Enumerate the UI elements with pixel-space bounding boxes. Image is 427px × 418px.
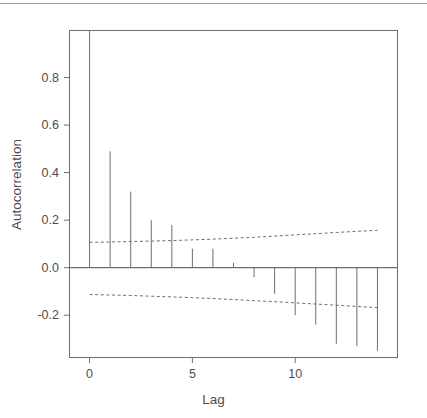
- y-axis-tick-label: -0.2: [0, 309, 59, 322]
- x-axis-title: Lag: [0, 392, 427, 407]
- y-axis-tick-label: 0.8: [0, 72, 59, 85]
- y-axis-title: Autocorrelation: [9, 85, 24, 285]
- acf-plot-figure: 0.80.60.40.20.0-0.2 0510 Lag Autocorrela…: [0, 0, 427, 418]
- x-axis-tick-label: 10: [270, 368, 320, 381]
- x-axis-tick-label: 5: [167, 368, 217, 381]
- plot-panel-border: [69, 30, 398, 358]
- x-axis-tick-label: 0: [65, 368, 115, 381]
